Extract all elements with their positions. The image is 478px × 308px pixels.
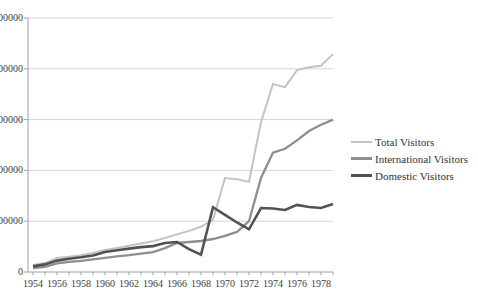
visitors-line-chart: 02000004000006000008000001000000 1954195… — [0, 0, 478, 308]
x-axis-tick-label: 1978 — [304, 278, 338, 290]
y-axis-tick-label: 800000 — [0, 63, 23, 75]
legend-label: Domestic Visitors — [375, 170, 454, 182]
y-axis-tick-label: 0 — [0, 266, 23, 278]
y-axis-tick-label: 200000 — [0, 215, 23, 227]
legend-item-total-visitors: Total Visitors — [351, 133, 468, 150]
y-axis-tick-label: 600000 — [0, 114, 23, 126]
legend-line-marker — [351, 141, 372, 143]
legend-line-marker — [351, 157, 372, 160]
legend-item-international-visitors: International Visitors — [351, 150, 468, 167]
series-line-total-visitors — [33, 54, 333, 265]
y-axis-tick-label: 400000 — [0, 164, 23, 176]
legend-line-marker — [351, 174, 372, 177]
legend-label: Total Visitors — [375, 136, 434, 148]
y-axis-tick-label: 1000000 — [0, 12, 23, 24]
legend-item-domestic-visitors: Domestic Visitors — [351, 167, 468, 184]
legend-label: International Visitors — [375, 153, 468, 165]
legend: Total VisitorsInternational VisitorsDome… — [351, 133, 468, 184]
series-line-domestic-visitors — [33, 204, 333, 267]
